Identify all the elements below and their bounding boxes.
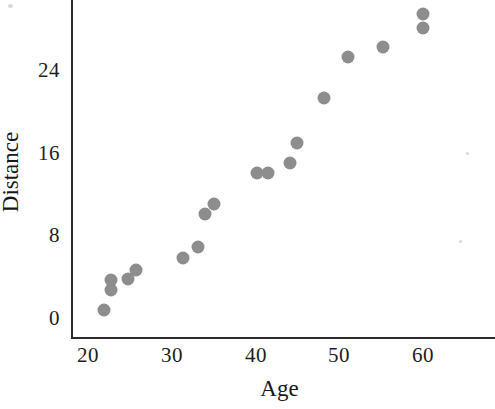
data-point bbox=[129, 264, 142, 277]
y-tick-label-8: 8 bbox=[22, 225, 60, 246]
data-point bbox=[104, 284, 117, 297]
x-tick-label-50: 50 bbox=[328, 345, 350, 366]
y-axis-title: Distance bbox=[0, 132, 23, 212]
data-point bbox=[283, 157, 296, 170]
data-point bbox=[104, 273, 117, 286]
y-axis-line bbox=[71, 0, 73, 339]
data-point bbox=[176, 252, 189, 265]
data-point bbox=[251, 167, 264, 180]
x-axis-title: Age bbox=[0, 377, 495, 401]
data-point bbox=[291, 137, 304, 150]
x-axis-line bbox=[71, 337, 495, 339]
x-tick-label-20: 20 bbox=[77, 345, 99, 366]
data-point bbox=[199, 207, 212, 220]
data-point bbox=[341, 50, 354, 63]
x-tick-label-40: 40 bbox=[245, 345, 267, 366]
data-point bbox=[191, 240, 204, 253]
scan-speck bbox=[466, 152, 469, 155]
x-axis-title-text: Age bbox=[196, 376, 298, 401]
y-tick-label-0: 0 bbox=[22, 308, 60, 329]
data-point bbox=[122, 272, 135, 285]
data-point bbox=[376, 41, 389, 54]
data-point bbox=[207, 198, 220, 211]
x-tick-label-30: 30 bbox=[161, 345, 183, 366]
data-point bbox=[417, 21, 430, 34]
data-point bbox=[97, 303, 110, 316]
data-point bbox=[417, 8, 430, 21]
scan-speck bbox=[8, 4, 13, 8]
x-tick-label-60: 60 bbox=[412, 345, 434, 366]
data-point bbox=[318, 91, 331, 104]
y-tick-label-16: 16 bbox=[22, 143, 60, 164]
scatter-plot-figure: 0 8 16 24 20 30 40 50 60 Age Distance bbox=[0, 0, 495, 409]
scan-speck bbox=[459, 240, 462, 243]
y-tick-label-24: 24 bbox=[22, 60, 60, 81]
data-point bbox=[262, 167, 275, 180]
